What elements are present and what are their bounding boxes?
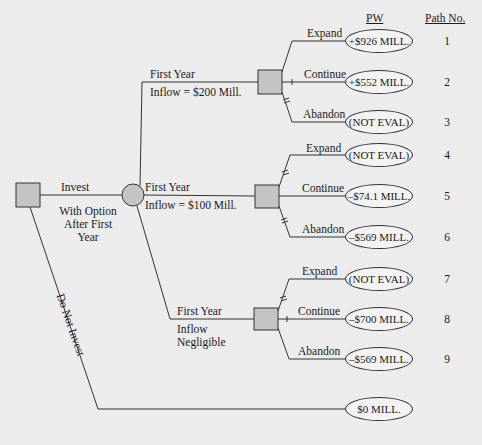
pw-oval-2: +$552 MILL. <box>345 70 413 94</box>
option-continue-5: Continue <box>302 182 344 195</box>
decision-node-200 <box>258 70 282 94</box>
invest-sublabel-line: Year <box>50 231 126 244</box>
option-abandon-3: Abandon <box>303 108 345 121</box>
pw-oval-4: (NOT EVAL) <box>345 143 413 167</box>
path-no-header: Path No. <box>425 12 465 24</box>
path-number-2: 2 <box>440 76 454 88</box>
pw-oval-1: +$926 MILL. <box>345 29 413 53</box>
path-number-5: 5 <box>440 190 454 202</box>
path-number-3: 3 <box>440 116 454 128</box>
invest-sublabel: With Option After First Year <box>50 205 126 244</box>
path-number-1: 1 <box>440 35 454 47</box>
invest-label: Invest <box>61 181 89 194</box>
path-number-6: 6 <box>440 231 454 243</box>
option-continue-8: Continue <box>298 305 340 318</box>
path-number-7: 7 <box>440 273 454 285</box>
root-decision-node <box>16 183 40 207</box>
pw-oval-9: –$569 MILL. <box>345 347 413 371</box>
branch-negligible-sublabel: Inflow Negligible <box>177 323 226 349</box>
pw-oval-7: (NOT EVAL) <box>345 267 413 291</box>
branch-200-sublabel: Inflow = $200 Mill. <box>150 86 241 99</box>
sublabel-line: Negligible <box>177 336 226 349</box>
path-number-4: 4 <box>440 149 454 161</box>
pw-oval-5: –$74.1 MILL. <box>345 184 413 208</box>
pw-header: PW <box>366 12 383 24</box>
path-number-9: 9 <box>440 353 454 365</box>
option-expand-4: Expand <box>306 142 341 155</box>
chance-node <box>122 184 144 206</box>
branch-200-label: First Year <box>150 68 195 81</box>
branch-100-label: First Year <box>145 181 190 194</box>
option-abandon-6: Abandon <box>302 223 344 236</box>
sublabel-line: Inflow <box>177 323 226 336</box>
option-continue-2: Continue <box>304 68 346 81</box>
pw-oval-do-not-invest: $0 MILL. <box>345 397 413 421</box>
invest-sublabel-line: With Option <box>50 205 126 218</box>
option-expand-1: Expand <box>307 27 342 40</box>
branch-100-sublabel: Inflow = $100 Mill. <box>145 199 236 212</box>
pw-oval-3: (NOT EVAL) <box>345 110 413 134</box>
invest-sublabel-line: After First <box>50 218 126 231</box>
decision-node-100 <box>255 185 279 208</box>
option-expand-7: Expand <box>302 265 337 278</box>
decision-node-negligible <box>254 308 278 330</box>
pw-oval-6: –$569 MILL. <box>345 225 413 249</box>
option-abandon-9: Abandon <box>298 345 340 358</box>
path-number-8: 8 <box>440 313 454 325</box>
branch-negligible-label: First Year <box>177 305 222 318</box>
pw-oval-8: –$700 MILL. <box>345 307 413 331</box>
